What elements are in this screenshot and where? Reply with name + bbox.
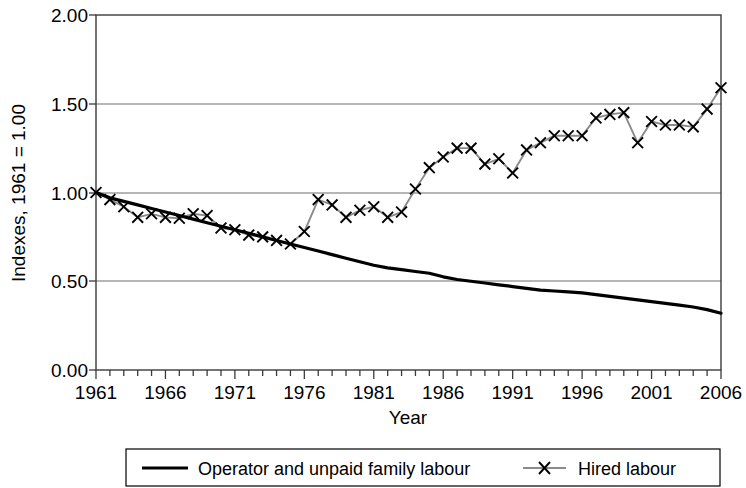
- x-tick-label: 1981: [353, 382, 395, 403]
- y-axis-tick-labels: 2.00 1.50 1.00 0.50 0.00: [51, 5, 88, 381]
- x-tick-label: 1976: [283, 382, 325, 403]
- x-axis-title: Year: [389, 407, 428, 428]
- hired-labour-marker: [702, 104, 713, 115]
- x-tick-label: 2006: [700, 382, 742, 403]
- x-tick-label: 1971: [214, 382, 256, 403]
- gridlines: [96, 104, 721, 281]
- hired-labour-marker: [313, 194, 324, 205]
- hired-labour-marker: [507, 168, 518, 179]
- line-chart-figure: Indexes, 1961 = 1.00 2.00 1.50 1.00 0.50…: [0, 0, 746, 488]
- series-hired-labour: [91, 82, 727, 249]
- chart-page: Indexes, 1961 = 1.00 2.00 1.50 1.00 0.50…: [0, 0, 746, 488]
- hired-labour-marker: [424, 162, 435, 173]
- x-axis-tick-labels: 1961196619711976198119861991199620012006: [75, 382, 742, 403]
- hired-labour-marker: [396, 207, 407, 218]
- hired-labour-marker: [632, 137, 643, 148]
- hired-labour-line: [96, 88, 721, 244]
- x-tick-label: 1986: [422, 382, 464, 403]
- chart-legend: Operator and unpaid family labour Hired …: [126, 449, 720, 486]
- y-tick-label: 1.00: [51, 183, 88, 204]
- x-axis-ticks: [96, 370, 721, 379]
- legend-label-operator: Operator and unpaid family labour: [198, 459, 470, 479]
- y-tick-label: 1.50: [51, 94, 88, 115]
- y-tick-label: 2.00: [51, 5, 88, 26]
- y-tick-label: 0.50: [51, 271, 88, 292]
- chart-svg: Indexes, 1961 = 1.00 2.00 1.50 1.00 0.50…: [0, 0, 746, 488]
- x-tick-label: 1996: [561, 382, 603, 403]
- hired-labour-marker: [438, 152, 449, 163]
- hired-labour-marker: [521, 145, 532, 156]
- hired-labour-markers: [91, 82, 727, 249]
- x-tick-label: 1961: [75, 382, 117, 403]
- hired-labour-marker: [299, 226, 310, 237]
- x-tick-label: 2001: [630, 382, 672, 403]
- x-tick-label: 1991: [492, 382, 534, 403]
- hired-labour-marker: [327, 200, 338, 211]
- y-tick-label: 0.00: [51, 360, 88, 381]
- x-tick-label: 1966: [144, 382, 186, 403]
- hired-labour-marker: [341, 212, 352, 223]
- y-axis-title: Indexes, 1961 = 1.00: [8, 104, 29, 282]
- hired-labour-marker: [479, 159, 490, 170]
- hired-labour-marker: [535, 137, 546, 148]
- hired-labour-marker: [493, 153, 504, 164]
- legend-label-hired: Hired labour: [578, 459, 676, 479]
- hired-labour-marker: [382, 212, 393, 223]
